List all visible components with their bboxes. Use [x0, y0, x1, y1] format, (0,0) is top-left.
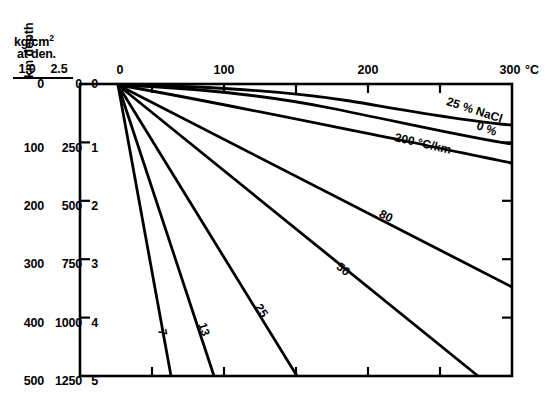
- y-axis-ticks-left: [80, 142, 90, 317]
- plot-area: [0, 0, 549, 400]
- curve-gradient-80: [118, 85, 512, 287]
- y-axis-ticks-right: [502, 142, 512, 317]
- figure-container: kg/cm2 at den. 1.0 2.5 km depth 0 0 0 10…: [0, 0, 549, 400]
